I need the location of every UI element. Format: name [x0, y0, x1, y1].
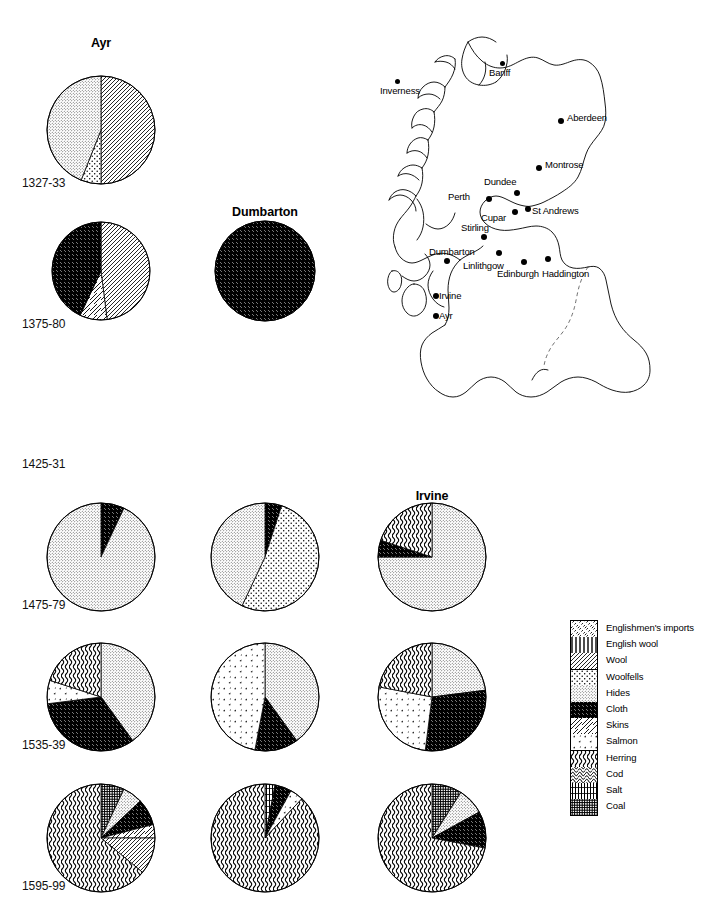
legend-label-woolfells: Woolfells	[606, 669, 694, 685]
pie-svg	[376, 501, 488, 613]
pie-slice-cloth	[425, 690, 486, 751]
map-label-inverness: Inverness	[380, 85, 420, 96]
period-label-1425-31: 1425-31	[22, 457, 65, 471]
pie-svg	[209, 782, 321, 894]
pie-svg	[376, 782, 488, 894]
legend-swatch-column	[570, 620, 598, 816]
legend-swatch-wool	[571, 653, 597, 669]
legend-label-hides: Hides	[606, 685, 694, 701]
legend-swatch-cloth	[571, 702, 597, 718]
legend-swatch-woolfells	[571, 670, 597, 686]
pie-slice-wool	[101, 76, 155, 184]
pie-dumbarton-1535-39	[209, 641, 321, 753]
legend-label-column: Englishmen's importsEnglish woolWoolWool…	[606, 620, 694, 814]
pie-irvine-1595-99	[376, 782, 488, 894]
pie-slice-salmon	[211, 643, 265, 750]
pie-svg	[209, 641, 321, 753]
map-label-perth: Perth	[448, 191, 470, 202]
map-dot-haddington	[545, 256, 551, 262]
pie-irvine-1535-39	[376, 641, 488, 753]
map-label-banff: Banff	[489, 67, 510, 78]
map-dot-montrose	[536, 165, 542, 171]
map-coastline	[372, 28, 716, 428]
pie-svg	[45, 74, 157, 186]
pie-slice-herring	[211, 784, 319, 892]
map-label-haddington: Haddington	[542, 268, 589, 279]
legend-swatch-skins	[571, 718, 597, 734]
pie-svg	[45, 641, 157, 753]
legend-label-english-wool: English wool	[606, 636, 694, 652]
map-label-irvine: Irvine	[439, 290, 461, 301]
pie-svg	[50, 220, 152, 322]
pie-ayr-1375-80	[50, 220, 152, 322]
pie-ayr-1327-33	[45, 74, 157, 186]
pie-svg	[213, 219, 317, 323]
pie-svg	[45, 501, 157, 613]
map-label-montrose: Montrose	[545, 159, 583, 170]
map-dot-dundee	[514, 190, 520, 196]
map-label-ayr: Ayr	[439, 310, 453, 321]
legend-swatch-cod	[571, 767, 597, 783]
map-label-aberdeen: Aberdeen	[567, 112, 607, 123]
legend-label-cloth: Cloth	[606, 701, 694, 717]
pie-ayr-1595-99	[45, 782, 157, 894]
legend-swatch-coal	[571, 799, 597, 815]
map-label-stirling: Stirling	[461, 222, 489, 233]
legend-swatch-englishmens-imports	[571, 621, 597, 637]
pie-slice-hides	[432, 643, 486, 697]
burgh-title-dumbarton: Dumbarton	[232, 205, 298, 219]
map-label-edinburgh: Edinburgh	[497, 268, 539, 279]
pie-ayr-1475-79	[45, 501, 157, 613]
burgh-title-ayr: Ayr	[91, 36, 111, 50]
scotland-map: InvernessBanffAberdeenMontroseDundeePert…	[372, 28, 716, 428]
map-dot-perth	[486, 196, 492, 202]
pie-dumbarton-1595-99	[209, 782, 321, 894]
pie-dumbarton-1475-79	[209, 501, 321, 613]
legend-swatch-salmon	[571, 734, 597, 750]
pie-irvine-1475-79	[376, 501, 488, 613]
legend-swatch-hides	[571, 686, 597, 702]
map-dot-dumbarton	[444, 258, 450, 264]
legend-label-herring: Herring	[606, 750, 694, 766]
map-dot-edinburgh	[521, 259, 527, 265]
map-label-dumbarton: Dumbarton	[429, 246, 475, 257]
map-dot-aberdeen	[558, 118, 564, 124]
legend-swatch-salt	[571, 783, 597, 799]
map-dot-linlithgow	[496, 250, 502, 256]
figure-page: AyrDumbartonIrvine 1327-331375-801425-31…	[0, 0, 718, 920]
pie-slice-hides	[47, 503, 155, 611]
pie-ayr-1535-39	[45, 641, 157, 753]
legend-label-salt: Salt	[606, 782, 694, 798]
legend-label-wool: Wool	[606, 652, 694, 668]
pie-slice-wool	[101, 222, 150, 320]
map-dot-inverness	[395, 79, 400, 84]
map-label-st-andrews: St Andrews	[532, 205, 579, 216]
pie-svg	[209, 501, 321, 613]
pie-svg	[45, 782, 157, 894]
map-dot-cupar	[512, 209, 518, 215]
map-dot-st-andrews	[525, 206, 531, 212]
map-dot-banff	[500, 61, 505, 66]
map-dot-stirling	[481, 234, 487, 240]
legend-swatch-herring	[571, 751, 597, 767]
pie-slice-salmon	[378, 687, 432, 751]
legend-label-englishmens-imports: Englishmen's imports	[606, 620, 694, 636]
map-label-dundee: Dundee	[484, 176, 516, 187]
legend-label-cod: Cod	[606, 766, 694, 782]
pie-slice-cloth	[215, 221, 315, 321]
legend-label-coal: Coal	[606, 798, 694, 814]
legend-label-skins: Skins	[606, 717, 694, 733]
legend-swatch-english-wool	[571, 637, 597, 653]
legend-label-salmon: Salmon	[606, 733, 694, 749]
pie-dumbarton-1375-80	[213, 219, 317, 323]
pie-svg	[376, 641, 488, 753]
